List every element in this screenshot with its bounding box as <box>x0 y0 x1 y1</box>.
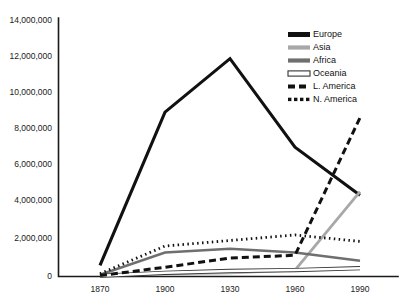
legend-item-oceania[interactable]: Oceania <box>288 68 347 78</box>
y-tick-label: 0 <box>47 271 52 281</box>
legend-swatch-asia <box>288 45 310 49</box>
y-tick-label: 2,000,000 <box>14 233 52 243</box>
y-tick-label: 8,000,000 <box>14 123 52 133</box>
chart-legend: Europe Asia Africa Oceania L. America N.… <box>288 29 357 104</box>
legend-label-n-america: N. America <box>313 94 357 104</box>
legend-swatch-africa <box>288 58 310 62</box>
y-tick-label: 10,000,000 <box>9 87 52 97</box>
x-tick-label: 1900 <box>156 284 175 294</box>
y-tick-label: 4,000,000 <box>14 195 52 205</box>
y-tick-label: 6,000,000 <box>14 159 52 169</box>
legend-item-asia[interactable]: Asia <box>288 42 331 52</box>
legend-swatch-europe <box>288 32 310 37</box>
x-tick-label: 1960 <box>286 284 305 294</box>
legend-label-asia: Asia <box>313 42 331 52</box>
legend-label-l-america: L. America <box>313 81 356 91</box>
legend-label-europe: Europe <box>313 29 342 39</box>
x-tick-label: 1930 <box>221 284 240 294</box>
legend-item-l-america[interactable]: L. America <box>288 81 356 91</box>
legend-item-africa[interactable]: Africa <box>288 55 336 65</box>
series-layer <box>100 59 360 276</box>
legend-item-europe[interactable]: Europe <box>288 29 342 39</box>
series-line-l-america <box>100 118 360 276</box>
chart-axes <box>59 18 399 277</box>
x-tick-label: 1990 <box>351 284 370 294</box>
x-axis-tick-labels: 1870 1900 1930 1960 1990 <box>91 284 370 294</box>
x-tick-label: 1870 <box>91 284 110 294</box>
legend-swatch-l-america <box>288 85 306 89</box>
y-tick-label: 12,000,000 <box>9 51 52 61</box>
y-axis-tick-labels: 14,000,000 12,000,000 10,000,000 8,000,0… <box>9 15 52 281</box>
legend-label-oceania: Oceania <box>313 68 347 78</box>
legend-swatch-n-america <box>288 98 309 101</box>
legend-label-africa: Africa <box>313 55 336 65</box>
legend-swatch-oceania <box>288 71 310 76</box>
chart-canvas: 14,000,000 12,000,000 10,000,000 8,000,0… <box>0 0 406 305</box>
y-tick-label: 14,000,000 <box>9 15 52 25</box>
series-line-asia <box>100 192 360 276</box>
legend-item-n-america[interactable]: N. America <box>288 94 357 104</box>
line-chart: 14,000,000 12,000,000 10,000,000 8,000,0… <box>0 0 406 305</box>
